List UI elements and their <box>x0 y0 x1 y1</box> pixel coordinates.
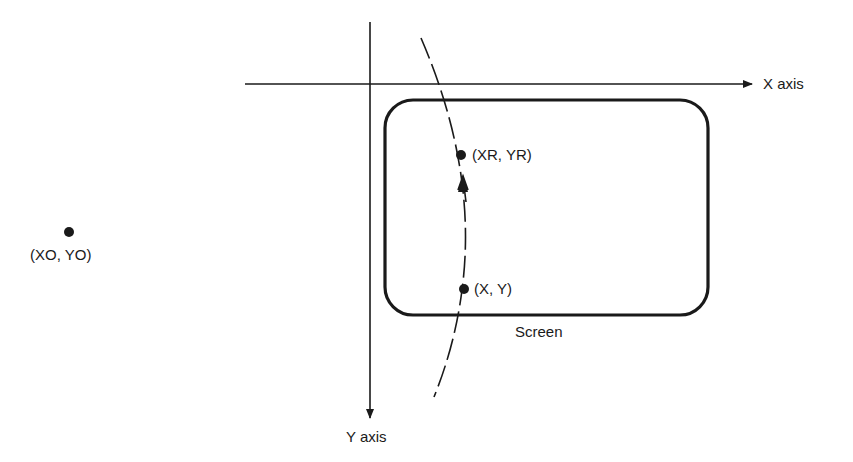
rotated-point-label: (XR, YR) <box>472 146 532 163</box>
diagram-canvas <box>0 0 853 462</box>
y-axis-label: Y axis <box>346 428 387 445</box>
screen-rectangle <box>385 100 708 315</box>
screen-label: Screen <box>515 323 563 340</box>
center-point-label: (XO, YO) <box>30 246 91 263</box>
rotated-point-dot <box>456 150 466 160</box>
original-point-label: (X, Y) <box>474 280 512 297</box>
original-point-dot <box>459 284 469 294</box>
center-point-dot <box>64 227 74 237</box>
rotation-arc <box>421 38 466 397</box>
x-axis-label: X axis <box>763 75 804 92</box>
